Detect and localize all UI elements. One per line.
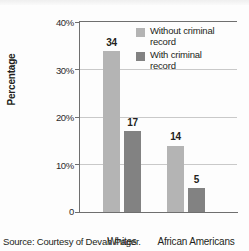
bar-value-african-americans-without: 14 xyxy=(161,131,190,142)
legend-swatch-icon-with xyxy=(136,52,145,61)
x-tick-label-african-americans: African Americans xyxy=(148,236,244,247)
legend-item-with-criminal-record[interactable]: With criminal record xyxy=(136,50,228,71)
bar-whites-without-criminal-record[interactable] xyxy=(103,51,120,213)
legend-label-with: With criminal record xyxy=(150,50,228,71)
bar-value-whites-with: 17 xyxy=(118,117,147,128)
source-caption: Source: Courtesy of Devah Pager. xyxy=(3,236,141,247)
bar-value-african-americans-with: 5 xyxy=(182,174,211,185)
chart-legend: Without criminal record With criminal re… xyxy=(136,26,228,74)
y-axis-title: Percentage xyxy=(6,35,17,125)
plot-area: 34 17 14 5 Whites African Americans With… xyxy=(80,22,237,212)
legend-label-without: Without criminal record xyxy=(150,26,228,47)
bar-african-americans-with-criminal-record[interactable] xyxy=(188,188,205,212)
bar-value-whites-without: 34 xyxy=(97,37,126,48)
legend-item-without-criminal-record[interactable]: Without criminal record xyxy=(136,26,228,47)
bar-chart-figure: 40% 30% 20% 10% 0 Percentage 34 17 14 5 … xyxy=(0,0,249,251)
bar-whites-with-criminal-record[interactable] xyxy=(124,131,141,212)
legend-swatch-icon-without xyxy=(136,28,145,37)
